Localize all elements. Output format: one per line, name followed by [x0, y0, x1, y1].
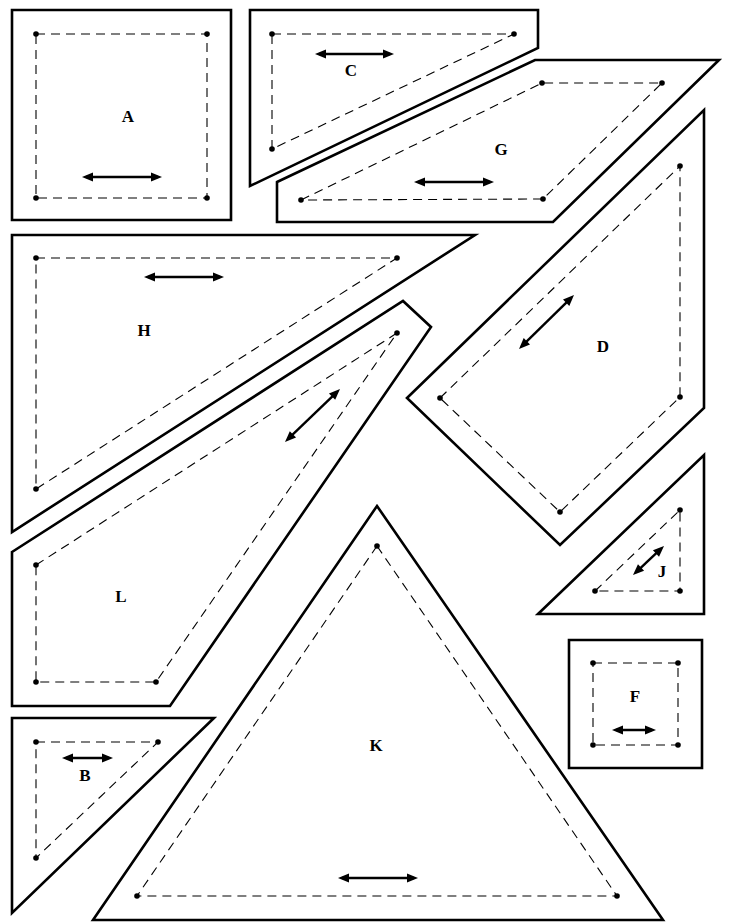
- seam-corner-dot-icon: [677, 163, 683, 169]
- seam-corner-dot-icon: [540, 196, 546, 202]
- piece-label-b: B: [79, 766, 90, 785]
- seam-corner-dot-icon: [590, 660, 596, 666]
- seam-corner-dot-icon: [659, 80, 665, 86]
- piece-label-c: C: [345, 61, 357, 80]
- seam-corner-dot-icon: [33, 562, 39, 568]
- seam-corner-dot-icon: [33, 486, 39, 492]
- seam-corner-dot-icon: [33, 739, 39, 745]
- pattern-pieces: ACGHDLJFBK: [12, 10, 719, 920]
- piece-label-h: H: [137, 321, 150, 340]
- seam-corner-dot-icon: [394, 255, 400, 261]
- seam-corner-dot-icon: [33, 255, 39, 261]
- piece-label-l: L: [115, 587, 126, 606]
- seam-corner-dot-icon: [269, 146, 275, 152]
- seam-corner-dot-icon: [33, 855, 39, 861]
- piece-label-f: F: [630, 687, 640, 706]
- piece-f: F: [569, 640, 702, 768]
- seam-corner-dot-icon: [592, 588, 598, 594]
- seam-corner-dot-icon: [204, 31, 210, 37]
- piece-label-k: K: [369, 736, 383, 755]
- seam-corner-dot-icon: [33, 31, 39, 37]
- seam-corner-dot-icon: [614, 893, 620, 899]
- seam-corner-dot-icon: [134, 893, 140, 899]
- seam-corner-dot-icon: [675, 660, 681, 666]
- piece-label-g: G: [494, 140, 507, 159]
- piece-label-d: D: [597, 337, 609, 356]
- seam-corner-dot-icon: [557, 509, 563, 515]
- seam-corner-dot-icon: [511, 31, 517, 37]
- piece-label-a: A: [122, 107, 135, 126]
- seam-corner-dot-icon: [155, 739, 161, 745]
- pattern-canvas: ACGHDLJFBK: [0, 0, 730, 923]
- seam-corner-dot-icon: [204, 195, 210, 201]
- seam-corner-dot-icon: [33, 679, 39, 685]
- seam-corner-dot-icon: [677, 588, 683, 594]
- seam-corner-dot-icon: [539, 80, 545, 86]
- seam-corner-dot-icon: [677, 507, 683, 513]
- piece-a: A: [12, 10, 231, 220]
- seam-corner-dot-icon: [269, 31, 275, 37]
- seam-corner-dot-icon: [590, 742, 596, 748]
- seam-corner-dot-icon: [394, 330, 400, 336]
- seam-corner-dot-icon: [298, 197, 304, 203]
- seam-corner-dot-icon: [153, 679, 159, 685]
- seam-corner-dot-icon: [437, 395, 443, 401]
- seam-corner-dot-icon: [675, 742, 681, 748]
- seam-corner-dot-icon: [374, 543, 380, 549]
- piece-label-j: J: [658, 562, 667, 581]
- seam-corner-dot-icon: [33, 195, 39, 201]
- seam-corner-dot-icon: [677, 394, 683, 400]
